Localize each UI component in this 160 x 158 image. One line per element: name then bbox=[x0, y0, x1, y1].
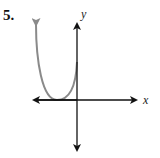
y-axis-label: y bbox=[80, 7, 87, 21]
graph: x y bbox=[0, 0, 160, 158]
x-axis-label: x bbox=[142, 93, 149, 107]
parabola-curve bbox=[36, 24, 77, 100]
